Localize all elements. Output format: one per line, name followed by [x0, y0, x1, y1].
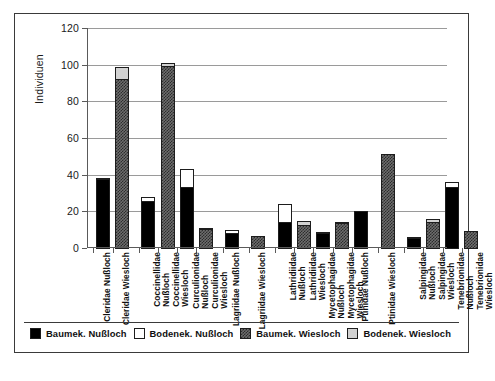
- legend-item[interactable]: Bodenek. Nußloch: [134, 328, 234, 339]
- x-axis-tick-label-line: Wiesloch: [182, 252, 191, 307]
- axis-frame: [87, 28, 447, 248]
- x-axis-tick-label-line: Cleridae Nußloch: [103, 252, 112, 322]
- legend-label: Baumek. Wiesloch: [256, 328, 340, 339]
- y-axis-tick: [82, 248, 87, 249]
- x-axis-tick-label: TenebrionidaeNußloch: [457, 252, 476, 309]
- y-axis-tick-label: 0: [73, 242, 79, 254]
- x-axis-tick-label-line: Nußloch: [201, 252, 210, 309]
- x-axis-tick-label: CoccinellidaeNußloch: [153, 252, 172, 307]
- legend-label: Baumek. Nußloch: [46, 328, 127, 339]
- y-axis-label: Individuen: [33, 54, 45, 104]
- x-axis-tick-label: Cleridae Nußloch: [103, 252, 112, 322]
- y-axis-tick-label: 60: [67, 132, 79, 144]
- x-axis-tick-label: SalpingidaeWiesloch: [438, 252, 457, 300]
- bar-slot[interactable]: [464, 28, 478, 248]
- x-axis-tick-label: Ptinidae Wiesloch: [388, 252, 397, 325]
- legend-label: Bodenek. Nußloch: [150, 328, 234, 339]
- y-axis-tick-label: 20: [67, 205, 79, 217]
- x-axis-tick-label-line: Nußloch: [428, 252, 437, 300]
- x-axis-tick-label: Ptinidae Nußloch: [361, 252, 370, 321]
- legend-label: Bodenek. Wiesloch: [363, 328, 451, 339]
- bar-segment[interactable]: [445, 187, 459, 249]
- chart-figure: Individuen 020406080100120 Cleridae Nußl…: [14, 13, 469, 353]
- legend-swatch-icon: [240, 328, 251, 339]
- bar-stack[interactable]: [445, 182, 459, 248]
- x-axis-tick-label-line: Wiesloch: [486, 252, 495, 309]
- x-axis-tick-label-line: Lagriidae Nußloch: [232, 252, 241, 326]
- x-axis-tick-label: TenebrionidaeWiesloch: [476, 252, 495, 309]
- plot-area: 020406080100120: [87, 28, 447, 248]
- x-axis-tick-label-line: Wiesloch: [318, 252, 327, 300]
- x-axis-tick-labels: Cleridae NußlochCleridae WieslochCoccine…: [87, 252, 447, 330]
- legend-item[interactable]: Baumek. Nußloch: [30, 328, 127, 339]
- x-axis-tick-label-line: Wiesloch: [220, 252, 229, 309]
- x-axis-tick-label: LathridiidaeNußloch: [289, 252, 308, 300]
- x-axis-tick-label-line: Cleridae Wiesloch: [122, 252, 131, 325]
- x-axis-tick-label-line: Lagriidae Wiesloch: [258, 252, 267, 329]
- chart-legend: Baumek. NußlochBodenek. NußlochBaumek. W…: [24, 322, 459, 344]
- x-axis-tick-label: SalpingidaeNußloch: [419, 252, 438, 300]
- x-axis-tick-label-line: Nußloch: [299, 252, 308, 300]
- x-axis-tick-label: Cleridae Wiesloch: [122, 252, 131, 325]
- x-axis-tick-label-line: Ptinidae Wiesloch: [388, 252, 397, 325]
- x-axis-tick-label: MycetophagidaeNußloch: [328, 252, 347, 318]
- y-axis-tick-label: 100: [61, 59, 79, 71]
- legend-item[interactable]: Baumek. Wiesloch: [240, 328, 340, 339]
- x-axis-tick-label-line: Ptinidae Nußloch: [361, 252, 370, 321]
- legend-swatch-icon: [347, 328, 358, 339]
- x-axis-tick-label: CurculionidaeWiesloch: [211, 252, 230, 309]
- x-axis-tick-label: Lagriidae Nußloch: [232, 252, 241, 326]
- y-axis-tick-label: 120: [61, 22, 79, 34]
- bar-segment[interactable]: [464, 231, 478, 249]
- x-axis-tick-label: LathridiidaeWiesloch: [309, 252, 328, 300]
- x-axis-tick-label: CoccinellidaeWiesloch: [172, 252, 191, 307]
- x-axis-tick-label: Lagriidae Wiesloch: [258, 252, 267, 329]
- y-axis-tick-label: 40: [67, 169, 79, 181]
- y-axis-tick-label: 80: [67, 95, 79, 107]
- x-axis-tick-label: CurculionidaeNußloch: [192, 252, 211, 309]
- legend-swatch-icon: [30, 328, 41, 339]
- legend-swatch-icon: [134, 328, 145, 339]
- bar-stack[interactable]: [464, 231, 478, 248]
- legend-item[interactable]: Bodenek. Wiesloch: [347, 328, 451, 339]
- bar-slot[interactable]: [445, 28, 459, 248]
